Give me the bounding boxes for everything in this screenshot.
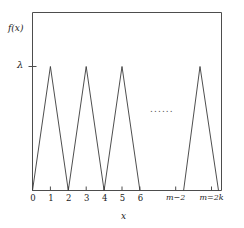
- x-axis-label: x: [121, 212, 126, 221]
- y-tick-label-lambda: λ: [17, 60, 23, 70]
- x-tick-label-2: 2: [65, 194, 73, 203]
- x-tick-marks: [33, 187, 212, 191]
- x-tick-label-1: 1: [47, 194, 55, 203]
- y-axis-label: f(x): [8, 24, 23, 33]
- x-tick-label-4: 4: [101, 194, 109, 203]
- x-tick-label-m: m=2k: [196, 194, 228, 202]
- curve-segment-tail: [184, 67, 219, 191]
- ellipsis-annotation: ......: [150, 104, 174, 114]
- x-tick-label-5: 5: [119, 194, 127, 203]
- x-tick-label-3: 3: [83, 194, 91, 203]
- x-tick-label-6: 6: [136, 194, 144, 203]
- curve-segment-main: [33, 67, 140, 191]
- figure-container: f(x) λ x ...... 0 1 2 3 4 5 6 m−2 m=2k: [0, 0, 244, 228]
- x-tick-label-0: 0: [29, 194, 37, 203]
- x-tick-label-m-minus-2: m−2: [162, 194, 190, 202]
